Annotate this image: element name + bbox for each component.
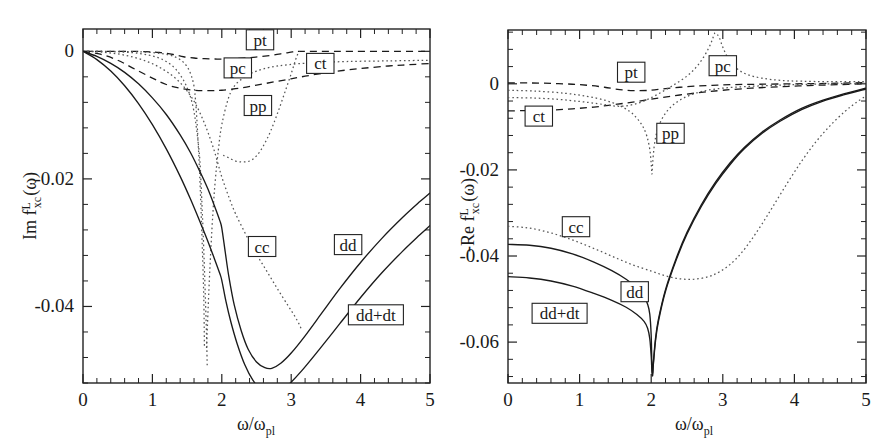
curve-label-pp: pp (662, 124, 679, 143)
curve-label-dd: dd (340, 236, 358, 255)
y-tick-label: -0.04 (34, 295, 74, 316)
x-axis-title-right: ω/ωpl (675, 414, 714, 438)
curve-labels-left: ptpcctppccdddd+dt (224, 30, 403, 325)
x-tick-label: 4 (790, 389, 800, 410)
x-tick-label: 4 (356, 389, 366, 410)
svg-text:-Re fLxc(ω): -Re fLxc(ω) (457, 178, 482, 252)
curve-label-dd: dd (626, 283, 644, 302)
y-tick-label: -0.02 (34, 168, 74, 189)
y-tick-label: -0.02 (459, 159, 499, 180)
x-tick-label: 2 (646, 389, 656, 410)
curve-pc (83, 51, 204, 348)
curve-label-pt: pt (253, 31, 267, 50)
curves-right (508, 33, 866, 376)
curve-cc (83, 51, 302, 330)
x-tick-label: 1 (575, 389, 585, 410)
x-tick-label: 3 (286, 389, 296, 410)
y-axis-title-right: -Re fLxc(ω) (457, 178, 482, 252)
curve-dd (508, 88, 866, 373)
svg-text:ω/ωpl: ω/ωpl (675, 414, 714, 438)
y-tick-label: -0.06 (459, 331, 499, 352)
chart-panel-right: 0123450-0.02-0.04-0.06 ptctpppcccdddd+dt… (444, 0, 888, 445)
curve-label-ct: ct (533, 107, 546, 126)
curve-label-pc: pc (230, 59, 247, 78)
x-tick-label: 0 (503, 389, 513, 410)
x-tick-label: 0 (78, 389, 88, 410)
curve-pt (508, 83, 866, 91)
x-tick-label: 1 (148, 389, 158, 410)
x-tick-label: 3 (718, 389, 728, 410)
curve-ct (508, 84, 866, 111)
curve-label-dd+dt: dd+dt (540, 304, 580, 323)
x-tick-label: 2 (217, 389, 227, 410)
curve-dd+dt (508, 89, 866, 376)
chart-svg-right: 0123450-0.02-0.04-0.06 ptctpppcccdddd+dt… (444, 0, 888, 445)
curve-label-pp: pp (249, 97, 266, 116)
figure-root: 0123450-0.02-0.04 ptpcctppccdddd+dt Im f… (0, 0, 888, 445)
y-tick-label: 0 (490, 73, 500, 94)
curve-pt (83, 51, 430, 59)
curve-pp (83, 51, 207, 367)
plot-frame (508, 30, 866, 383)
curve-label-cc: cc (255, 238, 271, 257)
curve-cc (508, 96, 866, 280)
y-tick-label: 0 (65, 40, 75, 61)
chart-svg-left: 0123450-0.02-0.04 ptpcctppccdddd+dt Im f… (0, 0, 444, 445)
axes-right: 0123450-0.02-0.04-0.06 (459, 30, 870, 410)
x-tick-label: 5 (861, 389, 871, 410)
plot-frame (83, 29, 430, 383)
x-axis-title-left: ω/ωpl (237, 414, 276, 438)
curve-label-cc: cc (568, 218, 584, 237)
curve-label-dd+dt: dd+dt (356, 306, 396, 325)
curve-label-pc: pc (715, 57, 732, 76)
curve-labels-right: ptctpppcccdddd+dt (525, 56, 736, 324)
svg-text:ω/ωpl: ω/ωpl (237, 414, 276, 438)
curve-label-pt: pt (625, 63, 639, 82)
curve-pc (508, 33, 866, 106)
curve-pp (508, 83, 866, 174)
curve-label-ct: ct (314, 54, 327, 73)
chart-panel-left: 0123450-0.02-0.04 ptpcctppccdddd+dt Im f… (0, 0, 444, 445)
x-tick-label: 5 (425, 389, 435, 410)
